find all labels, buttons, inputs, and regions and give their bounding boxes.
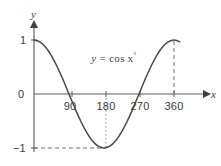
x-axis-arrowhead — [203, 90, 211, 98]
cosine-plot-svg — [0, 0, 221, 166]
equation-label: y = cos x° — [91, 52, 136, 64]
degree-symbol: ° — [134, 51, 137, 59]
y-tick-label-0: 0 — [18, 89, 24, 100]
x-tick-label-180: 180 — [97, 101, 116, 112]
y-tick-label-1: 1 — [20, 35, 26, 46]
equation-lhs: y — [91, 52, 96, 64]
x-axis-label: x — [211, 89, 216, 100]
x-tick-label-360: 360 — [165, 101, 184, 112]
x-tick-label-270: 270 — [131, 101, 150, 112]
y-axis-arrowhead — [30, 20, 38, 28]
y-tick-label-minus-1: −1 — [13, 143, 26, 154]
equation-rhs: cos x — [109, 52, 133, 64]
equation-equals: = — [100, 52, 107, 64]
x-tick-label-90: 90 — [64, 101, 77, 112]
y-axis-label: y — [31, 9, 36, 20]
cosine-graph-figure: y x 1 0 −1 90 180 270 360 y = cos x° — [0, 0, 221, 166]
